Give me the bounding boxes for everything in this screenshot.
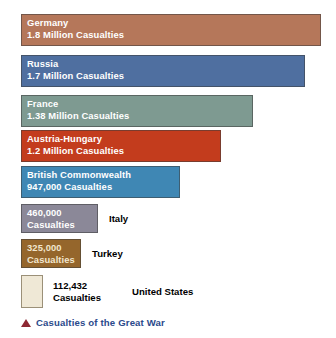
triangle-marker-icon (21, 319, 31, 327)
casualty-bar-chart: Germany 1.8 Million Casualties Russia 1.… (0, 0, 336, 338)
bar-value-germany: 1.8 Million Casualties (27, 29, 124, 41)
bar-country-germany: Germany (27, 17, 124, 29)
bar-value-united-states-line2: Casualties (53, 292, 101, 304)
bar-country-united-states: United States (132, 286, 193, 298)
bar-label-turkey: 325,000 Casualties (27, 242, 75, 265)
bar-country-italy: Italy (109, 213, 128, 225)
bar-label-italy: 460,000 Casualties (27, 207, 75, 230)
bar-label-russia: Russia 1.7 Million Casualties (27, 58, 124, 81)
bar-value-france: 1.38 Million Casualties (27, 110, 129, 122)
bar-value-united-states-line1: 112,432 (53, 280, 101, 292)
bar-label-united-states: 112,432 Casualties (53, 280, 101, 304)
bar-country-russia: Russia (27, 58, 124, 70)
bar-value-british-commonwealth: 947,000 Casualties (27, 181, 131, 193)
bar-value-turkey-line1: 325,000 (27, 242, 75, 254)
bar-value-turkey-line2: Casualties (27, 254, 75, 266)
bar-country-british-commonwealth: British Commonwealth (27, 169, 131, 181)
bar-country-france: France (27, 98, 129, 110)
bar-country-turkey: Turkey (92, 248, 123, 260)
bar-united-states[interactable] (21, 275, 43, 308)
bar-label-british-commonwealth: British Commonwealth 947,000 Casualties (27, 169, 131, 192)
bar-value-italy-line1: 460,000 (27, 207, 75, 219)
bar-label-germany: Germany 1.8 Million Casualties (27, 17, 124, 40)
bar-value-austria-hungary: 1.2 Million Casualties (27, 145, 124, 157)
chart-caption: Casualties of the Great War (21, 317, 165, 328)
bar-label-austria-hungary: Austria-Hungary 1.2 Million Casualties (27, 133, 124, 156)
chart-caption-text: Casualties of the Great War (36, 317, 165, 328)
bar-country-austria-hungary: Austria-Hungary (27, 133, 124, 145)
bar-value-italy-line2: Casualties (27, 219, 75, 231)
bar-label-france: France 1.38 Million Casualties (27, 98, 129, 121)
bar-value-russia: 1.7 Million Casualties (27, 70, 124, 82)
